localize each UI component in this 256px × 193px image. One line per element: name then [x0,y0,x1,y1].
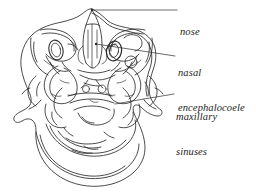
right-orbital-region [105,29,153,75]
label-nose-line-1: nose [180,26,200,38]
label-nasal-encephalocoele-line-1: nasal [178,67,245,79]
leader-dot-nose [91,9,93,11]
label-maxillary-sinuses: maxillary sinuses [176,88,217,180]
maxillary-sinuses-region [44,66,141,104]
figure-page: nose nasal encephalocoele maxillary sinu… [0,0,256,193]
posterior-fossa [46,120,136,156]
label-maxillary-sinuses-line-2: sinuses [176,146,217,158]
leader-line-nasal-encephalocoele [96,44,175,56]
leader-dot-nasal-encephalocoele [95,43,97,45]
zygomatic-arches [22,76,163,109]
nasal-bridge [78,10,107,68]
leader-line-maxillary-sinuses-branch [115,99,144,104]
label-maxillary-sinuses-line-1: maxillary [176,111,217,123]
